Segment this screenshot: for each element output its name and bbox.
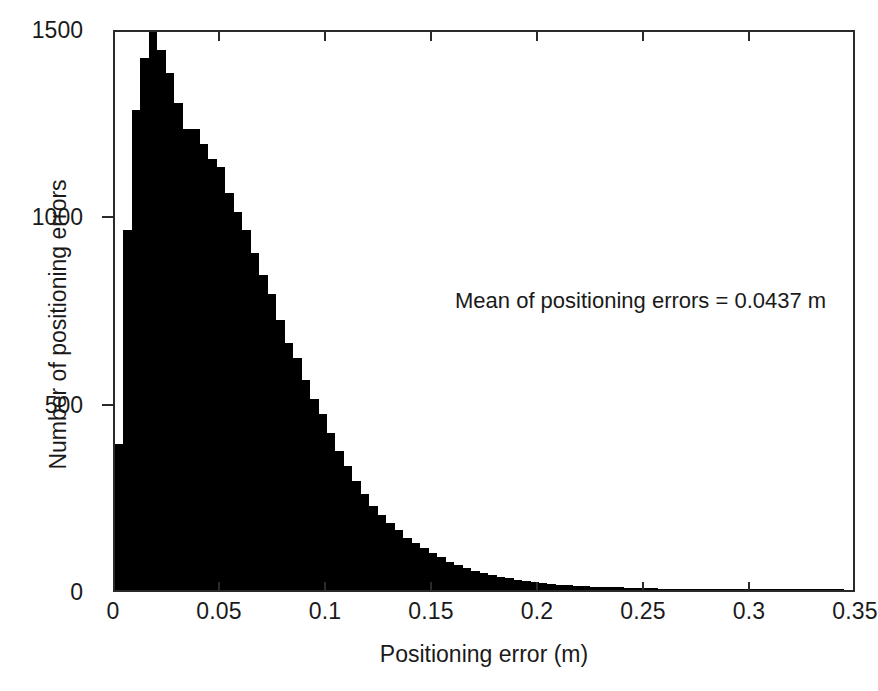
histogram-bar [649,588,657,590]
x-axis-title: Positioning error (m) [113,641,855,668]
histogram-bar [208,159,216,590]
histogram-bar [327,433,335,590]
histogram-bar [471,571,479,590]
histogram-bar [352,481,360,590]
x-tick-mark-bottom [218,582,220,592]
x-tick-mark-top [324,30,326,41]
histogram-bar [225,193,233,590]
histogram-bar [285,343,293,590]
histogram-bar [378,515,386,590]
x-tick-mark-bottom [748,582,750,592]
x-tick-label: 0.25 [620,598,666,625]
y-tick-mark [102,216,113,218]
histogram-bar [242,230,250,590]
histogram-bar [140,58,148,590]
x-tick-mark-top [642,30,644,41]
histogram-bar [174,103,182,590]
histogram-bar [827,589,835,590]
histogram-bar [802,589,810,590]
histogram-bar [793,589,801,590]
histogram-bar [590,587,598,590]
histogram-bar [463,568,471,590]
histogram-bar [564,585,572,590]
histogram-bar [183,129,191,590]
x-tick-mark-bottom [642,582,644,592]
histogram-bar [454,565,462,590]
histogram-bar [581,586,589,590]
x-tick-label: 0.3 [733,598,766,625]
y-axis-title: Number of positioning errors [45,45,72,605]
histogram-bar [539,583,547,590]
x-tick-label: 0.2 [521,598,554,625]
x-tick-label: 0.15 [408,598,454,625]
x-tick-label: 0.35 [832,598,878,625]
histogram-bar [709,589,717,590]
x-tick-mark-bottom [324,582,326,592]
histogram-bar [785,589,793,590]
histogram-bar [836,589,844,590]
histogram-bar [717,589,725,590]
histogram-bar [666,589,674,590]
histogram-bar [776,589,784,590]
histogram-bar [395,530,403,590]
histogram-bar [734,589,742,590]
histogram-bar [310,399,318,590]
x-tick-mark-bottom [536,582,538,592]
x-tick-mark-top [536,30,538,41]
histogram-bar [480,573,488,590]
histogram-bar [191,129,199,590]
histogram-bar [115,444,123,590]
x-tick-mark-top [748,30,750,41]
histogram-bar [319,414,327,590]
histogram-bar [132,110,140,590]
histogram-bar [607,587,615,590]
histogram-bar [759,589,767,590]
histogram-bar [683,589,691,590]
histogram-bar [624,588,632,590]
histogram-bar [369,506,377,590]
histogram-bar [420,548,428,590]
histogram-bar [658,589,666,590]
histogram-bar [556,585,564,590]
histogram-bar [412,543,420,590]
histogram-bar [810,589,818,590]
histogram-bar [335,451,343,590]
histogram-bar [259,275,267,590]
histogram-bar [497,577,505,590]
x-tick-label: 0.1 [309,598,342,625]
histogram-bar [505,578,513,590]
histogram-bar [217,167,225,590]
histogram-bar [251,253,259,590]
histogram-bar [692,589,700,590]
histogram-bar [573,586,581,590]
histogram-bar [157,50,165,590]
x-tick-mark-top [430,30,432,41]
histogram-figure: 050010001500 Number of positioning error… [0,0,878,691]
histogram-bar [514,580,522,590]
y-tick-mark [102,404,113,406]
mean-annotation: Mean of positioning errors = 0.0437 m [455,288,826,314]
histogram-bar [200,144,208,590]
histogram-bar [819,589,827,590]
histogram-bar [675,589,683,590]
histogram-bar [268,294,276,590]
histogram-bar [123,230,131,590]
histogram-bar [700,589,708,590]
histogram-bar [386,523,394,590]
x-tick-mark-bottom [430,582,432,592]
y-tick-label: 1500 [32,17,99,44]
histogram-bar [361,494,369,590]
histogram-bar [302,380,310,590]
histogram-bar [615,587,623,590]
histogram-bar [446,562,454,590]
histogram-bar [726,589,734,590]
x-tick-mark-top [218,30,220,41]
y-tick-label: 0 [70,579,99,606]
histogram-bar [149,30,157,590]
histogram-bar [437,557,445,590]
histogram-bar [632,588,640,590]
histogram-bar [293,358,301,590]
histogram-bar [276,320,284,590]
histogram-bar [166,73,174,590]
histogram-bar [403,538,411,590]
